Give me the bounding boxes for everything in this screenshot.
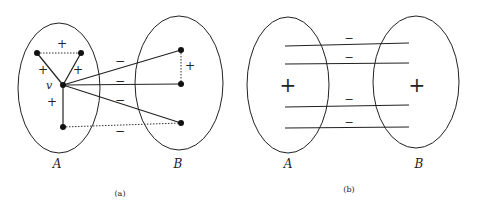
panel-b: − − − − + + A B (b) bbox=[247, 16, 459, 194]
node-a3 bbox=[60, 124, 66, 130]
cross-edge-sign-1: − bbox=[344, 32, 353, 45]
set-label-a: A bbox=[52, 157, 62, 171]
node-b2 bbox=[178, 81, 184, 87]
set-a-inner-sign: + bbox=[280, 73, 297, 97]
sign-minus-4: − bbox=[115, 124, 125, 138]
cross-edge-sign-4: − bbox=[344, 116, 353, 129]
node-v bbox=[60, 82, 66, 88]
signed-graph-figure: + + + + + − − − − v A B (a) − − − − + + … bbox=[0, 0, 478, 211]
node-b1 bbox=[178, 47, 184, 53]
sign-plus-left: + bbox=[38, 63, 48, 77]
sign-minus-1: − bbox=[115, 54, 125, 68]
vertex-label-v: v bbox=[46, 79, 53, 92]
node-a2 bbox=[78, 50, 84, 56]
panel-a: + + + + + − − − − v A B (a) bbox=[18, 16, 223, 198]
node-a1 bbox=[34, 50, 40, 56]
sign-minus-2: − bbox=[115, 74, 125, 88]
set-label-b: B bbox=[173, 157, 183, 171]
sign-plus-top: + bbox=[57, 37, 67, 51]
caption-a: (a) bbox=[114, 189, 125, 198]
cross-edge-sign-2: − bbox=[344, 51, 353, 64]
set-b-inner-sign: + bbox=[409, 73, 426, 97]
sign-plus-right: + bbox=[73, 63, 83, 77]
set-label-a-b: A bbox=[283, 157, 293, 171]
node-b3 bbox=[178, 120, 184, 126]
sign-plus-lower: + bbox=[47, 95, 57, 109]
sign-plus-b: + bbox=[185, 59, 195, 73]
cross-edge-sign-3: − bbox=[344, 93, 353, 106]
caption-b: (b) bbox=[343, 185, 354, 194]
set-label-b-b: B bbox=[414, 157, 424, 171]
sign-minus-3: − bbox=[115, 93, 125, 107]
